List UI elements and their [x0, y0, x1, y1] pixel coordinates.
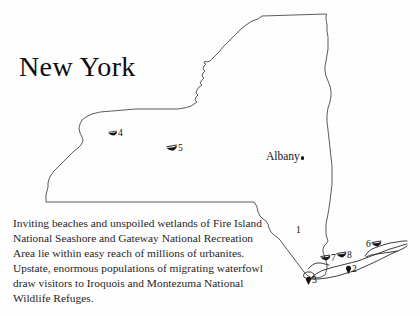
nyc-harbor-path [308, 263, 329, 269]
caption-paragraph: Inviting beaches and unspoiled wetlands … [13, 216, 267, 307]
waterfowl-bird-icon [320, 254, 331, 263]
site-marker-label: 3 [312, 275, 317, 285]
page-title: New York [19, 53, 136, 81]
teardrop-dot-icon [345, 264, 352, 274]
site-marker-6[interactable]: 6 [366, 239, 382, 249]
site-marker-label: 4 [118, 128, 123, 138]
site-marker-label: 8 [347, 250, 352, 260]
site-marker-3[interactable]: 3 [305, 275, 317, 285]
city-label-albany: Albany [266, 150, 304, 162]
site-marker-label: 5 [178, 143, 183, 153]
teardrop-dot-icon [305, 275, 312, 285]
city-dot-icon [301, 156, 304, 159]
site-marker-1[interactable]: 1 [296, 225, 301, 235]
waterfowl-bird-icon [108, 130, 118, 138]
new-york-map-illustration: New York Inviting beaches and unspoiled … [0, 0, 420, 316]
site-marker-5[interactable]: 5 [166, 143, 183, 153]
site-marker-8[interactable]: 8 [336, 250, 352, 260]
waterfowl-bird-icon [166, 144, 178, 153]
site-marker-2[interactable]: 2 [345, 264, 357, 274]
site-marker-label: 2 [352, 264, 357, 274]
site-marker-7[interactable]: 7 [320, 253, 336, 263]
city-name: Albany [266, 150, 300, 162]
site-marker-label: 1 [296, 225, 301, 235]
site-marker-4[interactable]: 4 [108, 128, 123, 138]
caption-text: Inviting beaches and unspoiled wetlands … [13, 216, 267, 307]
waterfowl-bird-icon [336, 251, 347, 260]
waterfowl-bird-icon [371, 240, 382, 249]
